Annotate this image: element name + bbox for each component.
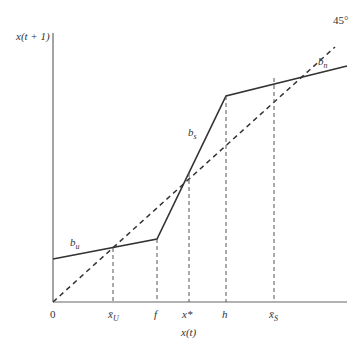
x-axis-label: x(t) <box>181 326 196 338</box>
segment-label-bn: bn <box>318 55 328 70</box>
drop-lines <box>113 78 274 302</box>
segment-label-bs: bs <box>188 126 197 141</box>
tick-label-h: h <box>222 308 228 320</box>
diagonal-45-line <box>53 47 335 302</box>
diagonal-label: 45° <box>333 14 348 26</box>
diagram-canvas <box>0 0 363 349</box>
tick-label-xu: x̄U <box>108 308 119 323</box>
tick-label-f: f <box>154 308 157 320</box>
origin-label: 0 <box>50 308 56 320</box>
y-axis-label: x(t + 1) <box>16 30 50 42</box>
segment-label-bu: bu <box>70 236 80 251</box>
tick-label-xstar: x* <box>182 308 192 320</box>
map-curve <box>53 66 347 259</box>
tick-label-xs: x̄S <box>269 308 278 323</box>
